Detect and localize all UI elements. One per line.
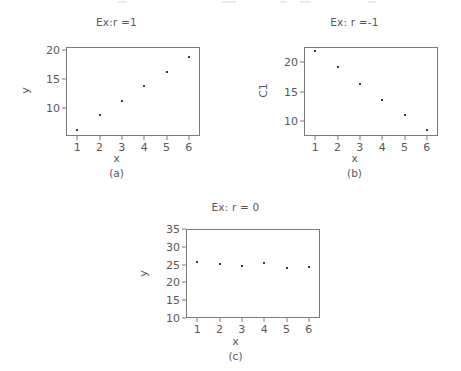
data-point (166, 71, 168, 73)
x-tick-mark (121, 136, 122, 140)
x-tick-mark (99, 136, 100, 140)
plot-area-c (186, 229, 320, 318)
x-tick-label: 5 (163, 141, 170, 154)
chart-title-b: Ex: r =-1 (252, 16, 457, 28)
x-tick-label: 3 (118, 141, 125, 154)
y-tick-mark (182, 300, 186, 301)
y-tick-label: 20 (146, 276, 180, 289)
x-axis-label-c: x (128, 335, 343, 347)
y-tick-mark (182, 246, 186, 247)
y-tick-mark (62, 108, 66, 109)
data-point (337, 66, 339, 68)
plot-area-b (304, 47, 438, 136)
x-tick-label: 2 (216, 323, 223, 336)
y-tick-label: 15 (146, 294, 180, 307)
y-tick-mark (182, 229, 186, 230)
y-tick-mark (300, 62, 304, 63)
x-tick-mark (359, 136, 360, 140)
x-tick-label: 4 (379, 141, 386, 154)
y-tick-label: 10 (26, 102, 60, 115)
y-tick-label: 30 (146, 240, 180, 253)
x-tick-label: 1 (74, 141, 81, 154)
x-tick-mark (188, 136, 189, 140)
data-point (381, 99, 383, 101)
y-tick-label: 20 (26, 44, 60, 57)
x-tick-mark (144, 136, 145, 140)
x-tick-label: 4 (261, 323, 268, 336)
x-tick-mark (241, 318, 242, 322)
y-tick-label: 10 (264, 114, 298, 127)
x-tick-label: 1 (312, 141, 319, 154)
scan-edge-artifact (0, 0, 461, 4)
x-tick-mark (426, 136, 427, 140)
x-tick-mark (286, 318, 287, 322)
data-point (286, 267, 288, 269)
plot-area-a (66, 47, 200, 136)
data-point (308, 266, 310, 268)
y-tick-label: 20 (264, 56, 298, 69)
x-tick-label: 2 (334, 141, 341, 154)
x-tick-mark (264, 318, 265, 322)
data-point (314, 50, 316, 52)
x-tick-mark (219, 318, 220, 322)
data-point (121, 100, 123, 102)
y-tick-label: 15 (264, 85, 298, 98)
data-point (404, 114, 406, 116)
y-tick-label: 15 (26, 73, 60, 86)
x-tick-label: 3 (356, 141, 363, 154)
x-tick-mark (308, 318, 309, 322)
y-tick-mark (300, 120, 304, 121)
figure-caption-b: (b) (252, 167, 457, 179)
y-tick-label: 35 (146, 223, 180, 236)
x-tick-label: 5 (283, 323, 290, 336)
chart-title-a: Ex:r =1 (14, 16, 219, 28)
y-tick-label: 25 (146, 258, 180, 271)
data-point (196, 261, 198, 263)
x-tick-mark (197, 318, 198, 322)
y-tick-mark (182, 264, 186, 265)
x-tick-label: 4 (141, 141, 148, 154)
data-point (219, 263, 221, 265)
y-tick-mark (300, 91, 304, 92)
data-point (143, 85, 145, 87)
x-tick-label: 6 (185, 141, 192, 154)
data-point (241, 265, 243, 267)
x-tick-label: 5 (401, 141, 408, 154)
y-tick-mark (182, 282, 186, 283)
x-tick-label: 6 (305, 323, 312, 336)
x-tick-mark (337, 136, 338, 140)
y-tick-mark (62, 50, 66, 51)
x-tick-label: 3 (238, 323, 245, 336)
data-point (263, 262, 265, 264)
figure-b: Ex: r =-1 C1 x (b) 101520123456 (252, 12, 457, 184)
x-tick-mark (166, 136, 167, 140)
y-tick-mark (62, 79, 66, 80)
data-point (426, 129, 428, 131)
x-tick-mark (315, 136, 316, 140)
y-tick-label: 10 (146, 312, 180, 325)
x-tick-mark (404, 136, 405, 140)
x-tick-mark (382, 136, 383, 140)
x-tick-label: 2 (96, 141, 103, 154)
figure-caption-c: (c) (128, 350, 343, 362)
chart-title-c: Ex: r = 0 (128, 201, 343, 213)
x-tick-label: 6 (423, 141, 430, 154)
x-tick-mark (77, 136, 78, 140)
data-point (99, 114, 101, 116)
data-point (359, 83, 361, 85)
figure-a: Ex:r =1 y x (a) 101520123456 (14, 12, 219, 184)
data-point (76, 129, 78, 131)
data-point (188, 56, 190, 58)
x-tick-label: 1 (194, 323, 201, 336)
y-tick-mark (182, 318, 186, 319)
figure-caption-a: (a) (14, 167, 219, 179)
figure-c: Ex: r = 0 y x (c) 101520253035123456 (128, 197, 343, 369)
